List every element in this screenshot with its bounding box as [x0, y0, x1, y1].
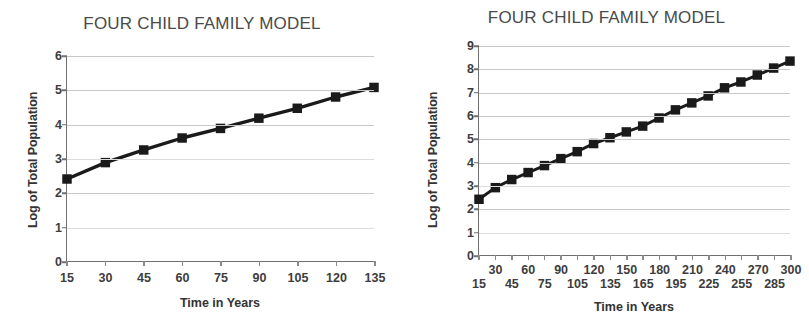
- x-axis-label-left: Time in Years: [66, 296, 374, 310]
- data-point-marker: [671, 105, 680, 114]
- series-line-right: [479, 46, 790, 255]
- gridline: [67, 193, 374, 194]
- y-tick-mark: [474, 185, 479, 187]
- x-tick-mark: [220, 261, 222, 266]
- data-point-marker: [293, 104, 302, 113]
- x-tick-mark: [610, 255, 612, 260]
- x-axis-label-right: Time in Years: [478, 300, 790, 314]
- y-tick-label: 6: [55, 50, 62, 63]
- chart-panel-left: FOUR CHILD FAMILY MODEL Log of Total Pop…: [0, 0, 404, 328]
- y-tick-label: 8: [467, 63, 474, 76]
- y-tick-label: 6: [467, 110, 474, 123]
- y-tick-mark: [62, 158, 67, 160]
- x-tick-mark: [297, 261, 299, 266]
- x-tick-mark: [577, 255, 579, 260]
- y-tick-label: 9: [467, 40, 474, 53]
- x-tick-label: 165: [633, 278, 654, 291]
- y-tick-mark: [474, 139, 479, 141]
- x-tick-label: 270: [748, 264, 769, 277]
- x-tick-mark: [593, 255, 595, 260]
- x-tick-label: 30: [99, 272, 113, 285]
- data-point-marker: [139, 145, 148, 154]
- two-chart-figure: FOUR CHILD FAMILY MODEL Log of Total Pop…: [0, 0, 809, 328]
- data-point-marker: [474, 195, 483, 204]
- x-tick-mark: [374, 261, 376, 266]
- x-tick-label: 30: [488, 264, 502, 277]
- data-point-marker: [622, 127, 631, 136]
- gridline: [479, 116, 790, 117]
- x-tick-label: 300: [781, 264, 802, 277]
- x-tick-mark: [741, 255, 743, 260]
- y-tick-mark: [474, 92, 479, 94]
- x-tick-label: 135: [365, 272, 386, 285]
- series-polyline: [67, 87, 374, 179]
- gridline: [67, 125, 374, 126]
- x-tick-mark: [528, 255, 530, 260]
- y-tick-label: 1: [55, 221, 62, 234]
- data-point-marker: [523, 168, 532, 177]
- data-point-marker: [638, 121, 647, 130]
- x-tick-mark: [708, 255, 710, 260]
- y-tick-label: 5: [467, 133, 474, 146]
- x-tick-label: 285: [764, 278, 785, 291]
- data-point-marker: [736, 77, 745, 86]
- data-point-marker: [254, 113, 263, 122]
- gridline: [479, 139, 790, 140]
- x-tick-label: 120: [584, 264, 605, 277]
- y-tick-mark: [474, 232, 479, 234]
- x-tick-label: 240: [715, 264, 736, 277]
- y-tick-label: 4: [467, 156, 474, 169]
- y-tick-mark: [474, 69, 479, 71]
- x-tick-mark: [182, 261, 184, 266]
- x-tick-mark: [774, 255, 776, 260]
- y-tick-label: 2: [55, 187, 62, 200]
- data-point-marker: [753, 70, 762, 79]
- x-tick-mark: [495, 255, 497, 260]
- x-tick-mark: [659, 255, 661, 260]
- x-tick-label: 90: [253, 272, 267, 285]
- x-tick-label: 210: [682, 264, 703, 277]
- gridline: [479, 93, 790, 94]
- x-tick-label: 15: [472, 278, 486, 291]
- y-tick-mark: [474, 162, 479, 164]
- x-tick-label: 225: [698, 278, 719, 291]
- y-tick-mark: [62, 55, 67, 57]
- x-tick-mark: [478, 255, 480, 260]
- x-tick-mark: [642, 255, 644, 260]
- y-tick-label: 0: [55, 256, 62, 269]
- data-point-marker: [687, 98, 696, 107]
- chart-title-left: FOUR CHILD FAMILY MODEL: [0, 14, 404, 34]
- data-point-marker: [785, 56, 794, 65]
- x-tick-mark: [544, 255, 546, 260]
- x-tick-mark: [692, 255, 694, 260]
- data-point-marker: [177, 133, 186, 142]
- gridline: [67, 90, 374, 91]
- x-tick-label: 255: [731, 278, 752, 291]
- x-tick-mark: [66, 261, 68, 266]
- data-point-marker: [605, 133, 614, 142]
- data-point-marker: [572, 147, 581, 156]
- y-tick-label: 1: [467, 226, 474, 239]
- x-tick-label: 105: [567, 278, 588, 291]
- x-tick-mark: [511, 255, 513, 260]
- x-tick-label: 60: [176, 272, 190, 285]
- data-point-marker: [62, 174, 71, 183]
- y-tick-label: 3: [55, 153, 62, 166]
- x-tick-label: 180: [649, 264, 670, 277]
- y-tick-mark: [474, 115, 479, 117]
- chart-title-right: FOUR CHILD FAMILY MODEL: [404, 8, 809, 28]
- x-tick-mark: [560, 255, 562, 260]
- y-tick-label: 3: [467, 180, 474, 193]
- x-tick-label: 75: [214, 272, 228, 285]
- x-tick-label: 75: [538, 278, 552, 291]
- gridline: [479, 209, 790, 210]
- data-point-marker: [507, 175, 516, 184]
- x-tick-mark: [336, 261, 338, 266]
- gridline: [479, 163, 790, 164]
- gridline: [479, 46, 790, 47]
- gridline: [67, 228, 374, 229]
- chart-panel-right: FOUR CHILD FAMILY MODEL Log of Total Pop…: [404, 0, 809, 328]
- gridline: [67, 159, 374, 160]
- data-point-marker: [654, 113, 663, 122]
- x-tick-label: 15: [60, 272, 74, 285]
